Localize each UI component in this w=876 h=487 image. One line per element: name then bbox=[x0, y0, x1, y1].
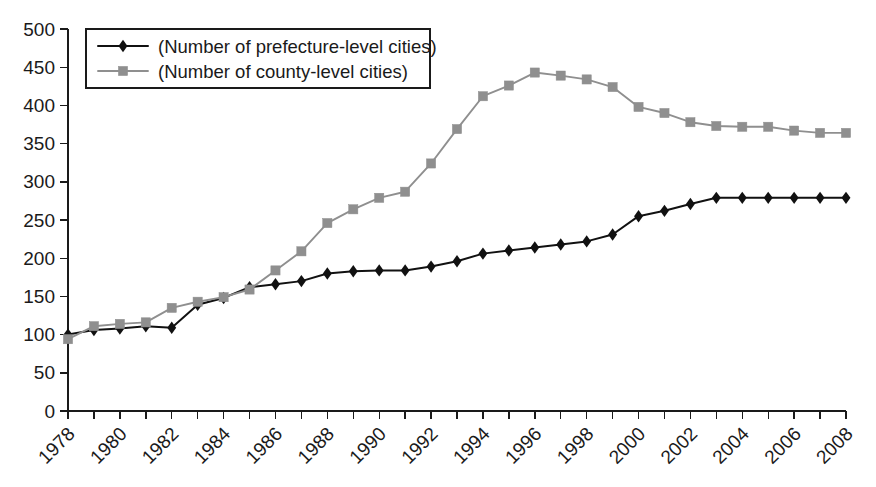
x-tick-label: 1998 bbox=[553, 423, 598, 468]
data-point-marker bbox=[453, 255, 462, 267]
data-point-marker bbox=[401, 187, 410, 196]
data-point-marker bbox=[686, 118, 695, 127]
data-point-marker bbox=[401, 264, 410, 276]
x-tick-label: 1982 bbox=[138, 423, 183, 468]
data-point-marker bbox=[245, 285, 254, 294]
data-point-marker bbox=[764, 122, 773, 131]
data-point-marker bbox=[297, 275, 306, 287]
data-point-marker bbox=[427, 260, 436, 272]
series-prefecture-level bbox=[64, 192, 851, 341]
data-point-marker bbox=[115, 319, 124, 328]
y-tick-label: 450 bbox=[23, 57, 55, 78]
data-point-marker bbox=[193, 297, 202, 306]
line-chart: 050100150200250300350400450500 197819801… bbox=[0, 0, 876, 487]
data-point-marker bbox=[349, 265, 358, 277]
x-tick-label: 1988 bbox=[293, 423, 338, 468]
chart-legend: (Number of prefecture-level cities)(Numb… bbox=[86, 29, 437, 88]
data-point-marker bbox=[504, 81, 513, 90]
data-point-marker bbox=[167, 322, 176, 334]
data-point-marker bbox=[219, 293, 228, 302]
x-tick-label: 2000 bbox=[605, 423, 650, 468]
data-point-marker bbox=[634, 210, 643, 222]
x-tick-label: 1994 bbox=[449, 423, 494, 468]
y-axis-ticks: 050100150200250300350400450500 bbox=[23, 19, 68, 422]
legend-swatch-marker bbox=[118, 66, 127, 75]
data-point-marker bbox=[530, 68, 539, 77]
data-point-marker bbox=[738, 192, 747, 204]
y-tick-label: 350 bbox=[23, 133, 55, 154]
data-point-marker bbox=[63, 335, 72, 344]
x-tick-label: 2002 bbox=[656, 423, 701, 468]
data-point-marker bbox=[634, 102, 643, 111]
chart-container: 050100150200250300350400450500 197819801… bbox=[0, 0, 876, 487]
data-point-marker bbox=[141, 318, 150, 327]
y-tick-label: 300 bbox=[23, 171, 55, 192]
data-point-marker bbox=[89, 322, 98, 331]
data-point-marker bbox=[478, 247, 487, 259]
data-point-marker bbox=[764, 192, 773, 204]
legend-label: (Number of prefecture-level cities) bbox=[158, 36, 437, 57]
data-point-marker bbox=[271, 278, 280, 290]
data-point-marker bbox=[323, 218, 332, 227]
series-line bbox=[68, 73, 846, 340]
data-point-marker bbox=[660, 108, 669, 117]
data-point-marker bbox=[556, 71, 565, 80]
data-point-marker bbox=[556, 238, 565, 250]
x-tick-label: 2008 bbox=[812, 423, 857, 468]
x-tick-label: 2004 bbox=[708, 423, 753, 468]
data-point-marker bbox=[478, 92, 487, 101]
x-tick-label: 1992 bbox=[397, 423, 442, 468]
data-point-marker bbox=[738, 122, 747, 131]
data-point-marker bbox=[608, 228, 617, 240]
data-point-marker bbox=[323, 267, 332, 279]
data-point-marker bbox=[686, 198, 695, 210]
data-point-marker bbox=[660, 205, 669, 217]
data-point-marker bbox=[790, 126, 799, 135]
data-point-marker bbox=[297, 247, 306, 256]
data-point-marker bbox=[504, 244, 513, 256]
y-tick-label: 50 bbox=[34, 362, 55, 383]
x-tick-label: 1986 bbox=[242, 423, 287, 468]
x-tick-label: 1984 bbox=[190, 423, 235, 468]
data-point-marker bbox=[815, 128, 824, 137]
y-tick-label: 400 bbox=[23, 95, 55, 116]
data-point-marker bbox=[842, 192, 851, 204]
x-tick-label: 1996 bbox=[501, 423, 546, 468]
x-tick-label: 2006 bbox=[760, 423, 805, 468]
series-county-level bbox=[63, 68, 850, 344]
data-point-marker bbox=[790, 192, 799, 204]
data-point-marker bbox=[167, 303, 176, 312]
data-point-marker bbox=[375, 193, 384, 202]
data-point-marker bbox=[349, 205, 358, 214]
data-point-marker bbox=[426, 159, 435, 168]
data-point-marker bbox=[375, 264, 384, 276]
data-point-marker bbox=[816, 192, 825, 204]
legend-label: (Number of county-level cities) bbox=[158, 61, 408, 82]
y-tick-label: 100 bbox=[23, 324, 55, 345]
y-tick-label: 200 bbox=[23, 248, 55, 269]
x-axis-ticks: 1978198019821984198619881990199219941996… bbox=[34, 411, 857, 468]
data-point-marker bbox=[712, 121, 721, 130]
data-point-marker bbox=[712, 192, 721, 204]
x-tick-label: 1978 bbox=[34, 423, 79, 468]
data-point-marker bbox=[582, 235, 591, 247]
data-point-marker bbox=[452, 124, 461, 133]
data-point-marker bbox=[608, 82, 617, 91]
y-tick-label: 0 bbox=[44, 401, 55, 422]
data-point-marker bbox=[271, 266, 280, 275]
y-tick-label: 500 bbox=[23, 19, 55, 40]
x-tick-label: 1990 bbox=[345, 423, 390, 468]
x-tick-label: 1980 bbox=[86, 423, 131, 468]
data-point-marker bbox=[841, 128, 850, 137]
series-layer bbox=[63, 68, 850, 344]
data-point-marker bbox=[530, 241, 539, 253]
data-point-marker bbox=[582, 75, 591, 84]
y-tick-label: 250 bbox=[23, 210, 55, 231]
y-tick-label: 150 bbox=[23, 286, 55, 307]
